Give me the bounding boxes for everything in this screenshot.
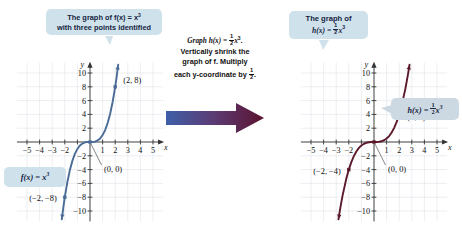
svg-text:y: y [80,60,85,69]
svg-text:5: 5 [151,146,155,155]
label-function-f: f(x) = x3 [4,167,66,187]
svg-text:4: 4 [82,110,86,119]
svg-text:x: x [447,143,452,152]
svg-text:−6: −6 [77,179,86,188]
svg-text:−4: −4 [35,146,44,155]
svg-text:−4: −4 [361,166,370,175]
transform-arrow-icon [166,103,264,133]
point-label: (−2, −4) [313,167,341,176]
svg-text:−4: −4 [319,146,328,155]
point-label: (−2, −8) [29,194,57,203]
svg-text:4: 4 [366,110,370,119]
svg-text:6: 6 [366,97,370,106]
svg-text:−4: −4 [77,166,86,175]
svg-text:−5: −5 [307,146,316,155]
svg-text:5: 5 [435,146,439,155]
instruction-line3: graph of f. Multiply [182,57,247,66]
svg-text:−3: −3 [48,146,57,155]
callout-right-line2: h(x) = 12x3 [312,26,345,35]
instruction-line4: each y-coordinate by 12. [174,70,256,79]
svg-text:3: 3 [126,146,130,155]
svg-text:x: x [163,143,168,152]
svg-text:10: 10 [362,69,370,78]
svg-text:−2: −2 [77,152,86,161]
svg-text:8: 8 [366,83,370,92]
svg-text:−8: −8 [77,193,86,202]
point-label: (0, 0) [104,165,122,174]
label-function-h: h(x) = 12x3 [391,98,459,120]
svg-text:−2: −2 [60,146,69,155]
svg-text:8: 8 [82,83,86,92]
instruction-line1: Graph h(x) = 12x3. [187,36,242,45]
callout-left-line2: with three points identified [57,23,151,32]
svg-text:4: 4 [138,146,142,155]
svg-text:2: 2 [82,124,86,133]
svg-text:1: 1 [101,146,105,155]
svg-text:2: 2 [113,146,117,155]
callout-left-line1: The graph of f(x) = x3 [67,13,141,22]
svg-text:3: 3 [410,146,414,155]
svg-text:10: 10 [78,69,86,78]
graph-h-half-x-cubed: xy−5−4−3−212345−10−8−6−4−2246810(2, 4)(0… [296,52,456,232]
point-label: (2, 8) [123,76,141,85]
callout-right-tail-icon [319,40,329,50]
svg-text:2: 2 [397,146,401,155]
svg-text:−2: −2 [344,146,353,155]
svg-text:2: 2 [366,124,370,133]
callout-left-tail-icon [105,36,113,45]
point-label: (0, 0) [388,165,406,174]
svg-text:4: 4 [422,146,426,155]
svg-text:−10: −10 [357,207,370,216]
graph-f-x-cubed: xy−5−4−3−212345−10−8−6−4−2246810(2, 8)(0… [12,52,172,232]
svg-text:y: y [364,60,369,69]
svg-text:1: 1 [385,146,389,155]
callout-right-line1: The graph of [306,14,352,23]
instruction-line2: Vertically shrink the [181,47,250,56]
svg-text:−2: −2 [361,152,370,161]
transform-instruction-text: Graph h(x) = 12x3. Vertically shrink the… [161,34,269,81]
callout-right-graph-h: The graph of h(x) = 12x3 [289,11,368,39]
svg-text:−5: −5 [23,146,32,155]
callout-left-graph-f: The graph of f(x) = x3 with three points… [46,9,162,35]
svg-text:6: 6 [82,97,86,106]
svg-text:−6: −6 [361,179,370,188]
svg-text:−8: −8 [361,193,370,202]
svg-text:−3: −3 [332,146,341,155]
svg-text:−10: −10 [73,207,86,216]
